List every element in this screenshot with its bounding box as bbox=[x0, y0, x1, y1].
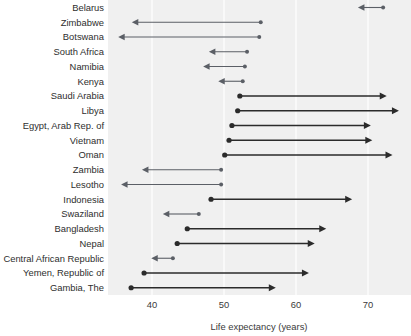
start-dot bbox=[243, 65, 247, 69]
start-dot bbox=[237, 93, 242, 98]
start-dot bbox=[219, 168, 223, 172]
start-dot bbox=[245, 50, 249, 54]
start-dot bbox=[185, 226, 190, 231]
plot-background bbox=[108, 0, 411, 295]
start-dot bbox=[129, 285, 134, 290]
category-label-libya: Libya bbox=[82, 105, 105, 116]
category-label-belarus: Belarus bbox=[72, 2, 104, 13]
category-label-indonesia: Indonesia bbox=[63, 194, 104, 205]
start-dot bbox=[141, 270, 146, 275]
start-dot bbox=[197, 212, 201, 216]
category-label-saudi-arabia: Saudi Arabia bbox=[51, 90, 105, 101]
category-label-botswana: Botswana bbox=[63, 31, 105, 42]
x-tick-label-50: 50 bbox=[219, 299, 229, 310]
start-dot bbox=[208, 197, 213, 202]
category-label-oman: Oman bbox=[78, 149, 104, 160]
x-axis-title: Life expectancy (years) bbox=[211, 321, 308, 332]
category-label-egypt-arab-rep-of: Egypt, Arab Rep. of bbox=[23, 120, 105, 131]
category-label-gambia-the: Gambia, The bbox=[50, 282, 104, 293]
category-label-nepal: Nepal bbox=[80, 238, 105, 249]
start-dot bbox=[235, 108, 240, 113]
category-label-bangladesh: Bangladesh bbox=[54, 223, 104, 234]
start-dot bbox=[222, 152, 227, 157]
x-axis-tick-labels: 40506070 bbox=[147, 299, 373, 310]
category-label-vietnam: Vietnam bbox=[70, 135, 104, 146]
life-expectancy-arrow-chart: BelarusZimbabweBotswanaSouth AfricaNamib… bbox=[0, 0, 411, 336]
start-dot bbox=[171, 256, 175, 260]
chart-canvas: BelarusZimbabweBotswanaSouth AfricaNamib… bbox=[0, 0, 411, 336]
x-tick-label-60: 60 bbox=[291, 299, 301, 310]
x-tick-label-70: 70 bbox=[363, 299, 373, 310]
category-label-zimbabwe: Zimbabwe bbox=[61, 17, 104, 28]
start-dot bbox=[257, 35, 261, 39]
category-label-zambia: Zambia bbox=[73, 164, 105, 175]
category-label-swaziland: Swaziland bbox=[61, 208, 104, 219]
category-label-south-africa: South Africa bbox=[53, 46, 104, 57]
category-axis-labels: BelarusZimbabweBotswanaSouth AfricaNamib… bbox=[3, 2, 104, 293]
start-dot bbox=[226, 138, 231, 143]
start-dot bbox=[241, 79, 245, 83]
category-label-kenya: Kenya bbox=[77, 76, 104, 87]
start-dot bbox=[219, 183, 223, 187]
plot-area bbox=[108, 0, 411, 295]
category-label-lesotho: Lesotho bbox=[71, 179, 104, 190]
start-dot bbox=[381, 6, 385, 10]
category-label-yemen-republic-of: Yemen, Republic of bbox=[23, 267, 104, 278]
x-tick-label-40: 40 bbox=[147, 299, 157, 310]
start-dot bbox=[259, 20, 263, 24]
category-label-central-african-republic: Central African Republic bbox=[3, 253, 104, 264]
start-dot bbox=[175, 241, 180, 246]
category-label-namibia: Namibia bbox=[70, 61, 105, 72]
start-dot bbox=[229, 123, 234, 128]
